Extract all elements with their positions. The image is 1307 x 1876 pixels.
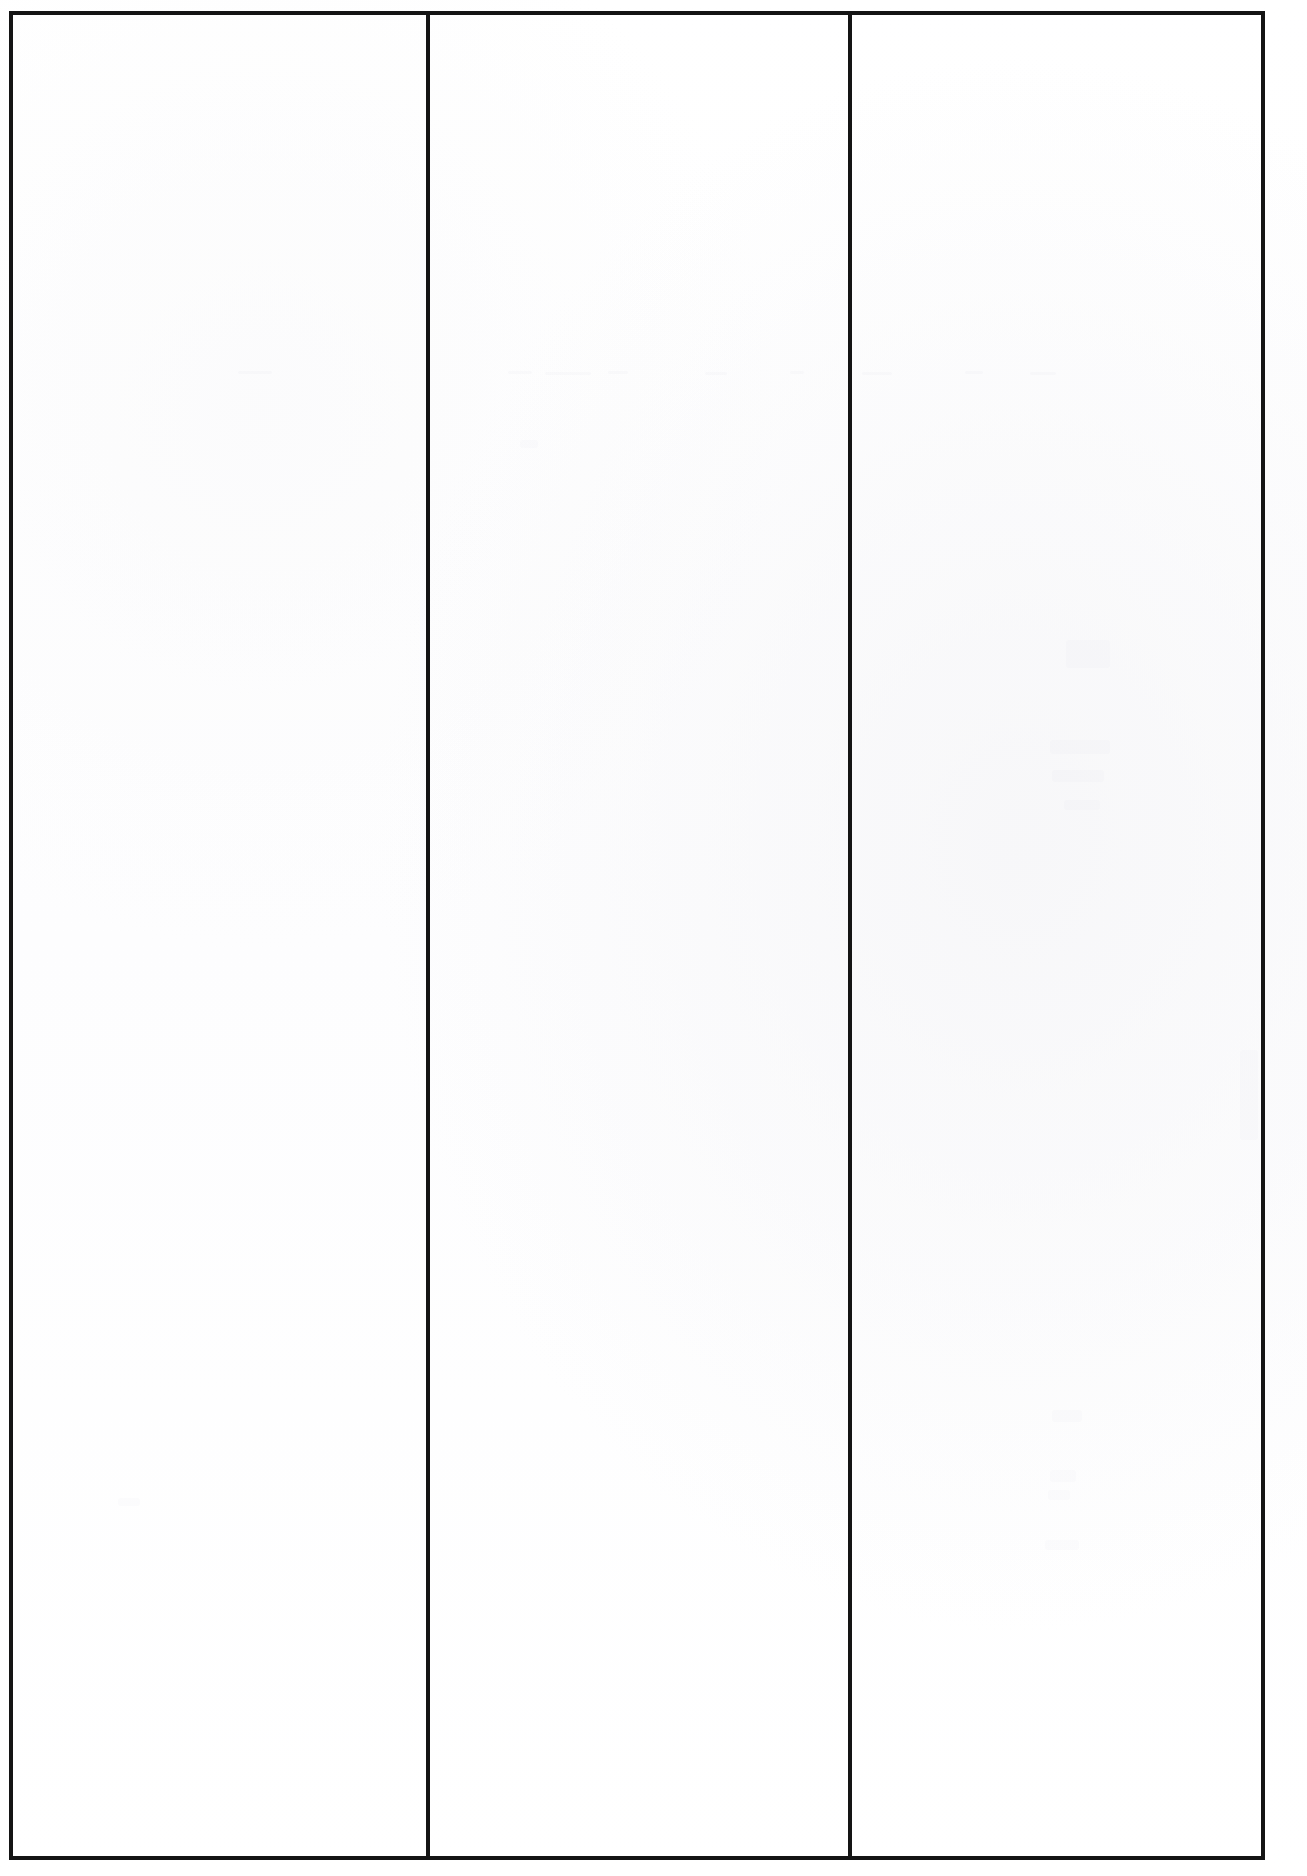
text-column-2[interactable] xyxy=(430,15,848,1856)
text-column-3[interactable] xyxy=(852,15,1261,1856)
document-page xyxy=(0,0,1307,1876)
text-column-1[interactable] xyxy=(13,15,426,1856)
